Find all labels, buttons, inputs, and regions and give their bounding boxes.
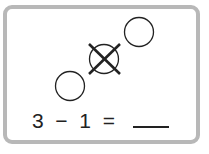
subtrahend: 1 (79, 109, 91, 132)
minuend: 3 (32, 109, 44, 132)
answer-blank[interactable] (133, 126, 169, 128)
minus-sign: − (55, 109, 67, 132)
circle-3 (125, 18, 154, 47)
equals-sign: = (103, 109, 115, 132)
circle-1 (56, 72, 85, 101)
equation: 3 − 1 = (32, 109, 115, 133)
